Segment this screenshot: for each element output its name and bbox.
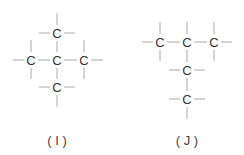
atom-c: C <box>52 53 61 68</box>
atom-c: C <box>52 80 61 95</box>
atom-c: C <box>182 35 191 50</box>
atom-c: C <box>209 35 218 50</box>
atom-c: C <box>79 53 88 68</box>
atom-c: C <box>182 92 191 107</box>
atom-c: C <box>155 35 164 50</box>
diagram-canvas: C C C C C ( I ) C C C C C ( J ) <box>0 0 244 155</box>
atom-c: C <box>52 26 61 41</box>
atom-c: C <box>26 53 35 68</box>
structure-label-i: ( I ) <box>47 133 67 148</box>
structure-label-j: ( J ) <box>176 133 198 148</box>
atom-c: C <box>182 63 191 78</box>
